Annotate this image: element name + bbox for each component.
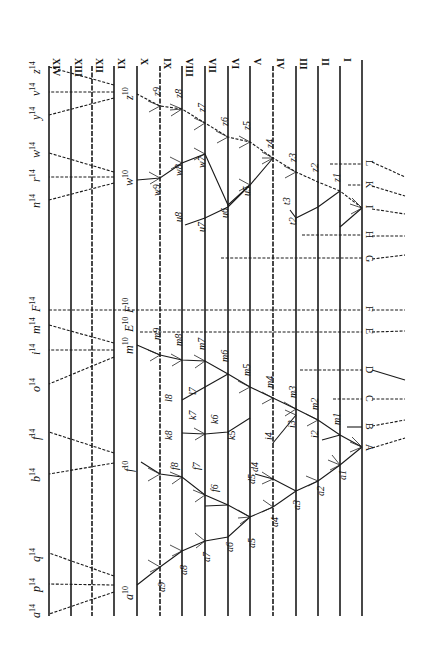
label-z14: z14 [28, 61, 43, 75]
label-l8: l8 [163, 394, 174, 402]
label-k8: k8 [163, 431, 174, 440]
label-m5: m5 [241, 364, 252, 376]
level-XIII-label: XIII [73, 58, 84, 77]
label-a4: a4 [269, 517, 280, 527]
label-i4: i4 [263, 432, 274, 440]
label-a2: a2 [315, 486, 326, 496]
species-F-label: F [364, 306, 375, 312]
label-u5: u5 [241, 186, 252, 196]
label-z3: z3 [287, 153, 298, 163]
species-G-label: G [364, 255, 375, 262]
label-d5: d5 [246, 474, 257, 484]
label-z6: z6 [219, 117, 230, 127]
level-II-label: II [320, 58, 331, 66]
label-a5: a5 [246, 538, 257, 548]
level-VII-label: VII [207, 58, 218, 73]
label-k7: k7 [187, 410, 198, 420]
label-a7: a7 [201, 551, 212, 562]
label-u7: u7 [196, 221, 207, 232]
level-I-label: I [342, 58, 353, 62]
generation-labels: XIV XIII XII XI X IX VIII VII VI V IV II… [51, 58, 353, 77]
label-f8: f8 [169, 462, 180, 470]
label-w7: w7 [196, 155, 207, 168]
label-t2: t2 [287, 217, 298, 225]
level-III-label: III [298, 58, 309, 70]
level-XII-label: XII [94, 58, 105, 73]
label-f6: f6 [209, 484, 220, 492]
label-r14: r14 [28, 169, 43, 182]
label-z2: z2 [309, 163, 320, 173]
level-VIII-label: VIII [184, 58, 195, 77]
label-a9: a9 [156, 582, 167, 592]
label-m9: m9 [151, 328, 162, 340]
label-d4: d4 [249, 462, 260, 472]
label-a8: a8 [178, 565, 189, 575]
label-u6: u6 [219, 208, 230, 218]
level-XIV-label: XIV [51, 58, 62, 77]
label-a1: a1 [337, 470, 348, 480]
label-i2: i2 [309, 430, 320, 438]
label-F14: F14 [28, 297, 43, 313]
label-z10: z10 [121, 87, 136, 101]
label-m7: m7 [196, 337, 207, 350]
label-i3: i3 [286, 420, 297, 428]
label-n14: n14 [28, 194, 43, 208]
label-m1: m1 [331, 413, 342, 425]
level-VI-label: VI [230, 58, 241, 69]
label-m8: m8 [173, 334, 184, 346]
label-z8: z8 [173, 89, 184, 99]
label-m6: m6 [219, 350, 230, 362]
label-w10: w10 [121, 170, 136, 186]
level-XI-label: XI [116, 58, 127, 69]
label-f7: f7 [191, 461, 202, 470]
level-X-labels: a10 f10 m10 E10 F10 w10 z10 [121, 87, 136, 600]
label-l7: l7 [187, 386, 198, 395]
label-w8: w8 [173, 164, 184, 176]
label-w14: w14 [28, 142, 43, 158]
species-A-label: A [364, 444, 375, 452]
species-H-label: H [364, 231, 375, 238]
label-z1: z1 [331, 173, 342, 183]
label-m3: m3 [287, 386, 298, 398]
level-X-label: X [139, 58, 150, 66]
label-f14: f14 [28, 429, 43, 440]
label-q14: q14 [28, 548, 43, 562]
species-C-label: C [364, 395, 375, 402]
level-IX-label: IX [162, 58, 173, 70]
label-z5: z5 [241, 121, 252, 131]
label-z4: z4 [264, 139, 275, 149]
label-m2: m2 [309, 398, 320, 410]
label-a3: a3 [291, 500, 302, 510]
label-i14: i14 [28, 344, 43, 355]
level-V-label: V [252, 58, 263, 66]
species-B-label: B [364, 423, 375, 430]
label-w9: w9 [151, 184, 162, 196]
species-D-label: D [364, 366, 375, 373]
label-v14: v14 [28, 83, 43, 96]
label-o14: o14 [28, 378, 43, 392]
label-p14: p14 [28, 578, 43, 593]
label-t3: t3 [281, 197, 292, 205]
label-a14: a14 [28, 604, 43, 618]
species-L-label: L [364, 160, 375, 166]
species-E-label: E [364, 328, 375, 334]
label-z9: z9 [151, 87, 162, 97]
label-m14: m14 [28, 317, 43, 334]
label-a6: a6 [224, 542, 235, 552]
label-a10: a10 [121, 586, 136, 600]
species-K-label: K [364, 181, 375, 189]
label-k5: k5 [226, 431, 237, 440]
label-u8: u8 [173, 212, 184, 222]
label-m4: m4 [264, 376, 275, 388]
label-b14: b14 [28, 468, 43, 482]
label-E10: E10 [121, 317, 136, 333]
label-f10: f10 [121, 461, 136, 472]
label-F10: F10 [121, 298, 136, 314]
label-y14: y14 [28, 107, 43, 121]
label-z7: z7 [196, 102, 207, 113]
label-k6: k6 [209, 415, 220, 424]
species-I-label: I [364, 205, 375, 208]
final-species-labels: a14 p14 q14 b14 f14 o14 i14 m14 F14 n14 … [28, 61, 43, 618]
label-m10: m10 [121, 337, 136, 354]
level-IV-label: IV [275, 58, 286, 70]
